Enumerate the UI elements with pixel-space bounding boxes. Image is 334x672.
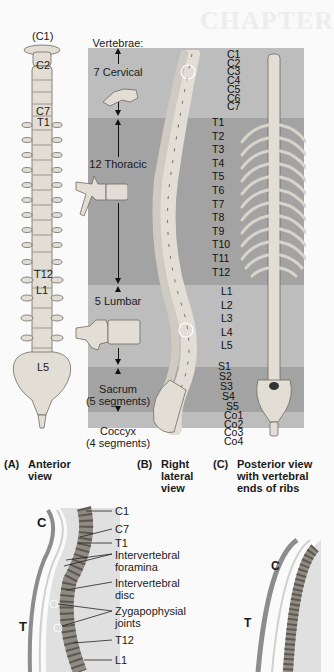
caption-b-line1: Right [161,458,189,470]
posterior-labels-sacral: S1 S2 S3 S4 S5 [218,361,239,411]
arrow-lumbar-up [115,286,121,292]
posterior-labels-cervical: C1 C2 C3 C4 C5 C6 C7 [227,50,240,111]
caption-lateral: (B)Right lateral view [137,458,193,494]
posterior-labels-lumbar: L1 L2 L3 L4 L5 [221,285,233,353]
caption-c-line2: with vertebral [237,470,309,482]
label-l1: L1 [221,285,233,299]
caption-a-letter: (A) [4,458,28,470]
curvature-label-c1: C1 [115,505,129,517]
lateral-spine-illustration [140,50,222,435]
curvature-label-foramina: Intervertebral foramina [115,549,180,573]
anterior-label-l1: L1 [36,284,48,296]
caption-b-line2: lateral [161,470,193,482]
arrow-cervical-down [115,110,121,116]
label-l2: L2 [221,299,233,313]
caption-anterior: (A)Anterior view [4,458,71,482]
label-t8: T8 [212,211,230,225]
label-t2: T2 [212,130,230,144]
arrow-lumbar-down [115,359,121,365]
caption-posterior: (C)Posterior view with vertebral ends of… [213,458,312,494]
curvature-label-l1: L1 [115,654,127,666]
caption-c-line3: ends of ribs [237,482,299,494]
anterior-spine-illustration [0,30,90,435]
anterior-label-l5: L5 [37,361,49,373]
curvature-region-t: T [19,621,27,633]
posterior-curvature-region-t: T [244,617,251,629]
label-l3: L3 [221,312,233,326]
thoracic-vertebra-illustration [72,170,128,220]
label-co4: Co4 [224,437,243,446]
label-t12: T12 [212,266,230,280]
posterior-labels-coccygeal: Co1 Co2 Co3 Co4 [224,411,243,445]
arrow-thoracic-down [115,278,121,284]
cervical-vertebra-illustration [100,84,140,108]
label-l4: L4 [221,326,233,340]
label-l5: L5 [221,339,233,353]
lumbar-vertebra-illustration [74,316,144,352]
curvature-label-t1: T1 [115,537,128,549]
foramina-line1: Intervertebral [115,549,180,561]
label-t4: T4 [212,157,230,171]
coccyx-line2: (4 segments) [74,437,162,449]
label-t9: T9 [212,225,230,239]
anterior-label-t1: T1 [37,116,50,128]
arrow-sacrum-up [115,368,121,374]
foramina-line2: foramina [115,561,180,573]
background-chapter-text: CHAPTER [200,6,334,36]
label-t1: T1 [212,116,230,130]
curvature-label-zygapophysial: Zygapophysial joints [115,605,186,629]
caption-b-line3: view [161,482,185,494]
curvature-region-c: C [37,517,46,529]
caption-c-letter: (C) [213,458,237,470]
disc-line1: Intervertebral [115,577,180,589]
caption-a-line2: view [28,470,52,482]
posterior-curvature-region-c: C [271,560,280,572]
anterior-label-c2: C2 [36,59,50,71]
caption-c-line1: Posterior view [237,458,312,470]
curvature-label-disc: Intervertebral disc [115,577,180,601]
disc-line2: disc [115,589,180,601]
label-c7: C7 [227,102,240,111]
curvature-label-t12: T12 [115,634,134,646]
zyg-line2: joints [115,617,186,629]
label-t3: T3 [212,143,230,157]
zyg-line1: Zygapophysial [115,605,186,617]
caption-a-line1: Anterior [28,458,71,470]
curvature-label-c7: C7 [115,523,129,535]
arrow-sacrum-down [115,406,121,412]
posterior-spine-illustration [240,50,306,440]
anterior-label-t12: T12 [34,268,53,280]
anterior-label-c1: (C1) [32,30,53,42]
posterior-labels-thoracic: T1 T2 T3 T4 T5 T6 T7 T8 T9 T10 T11 T12 [212,116,230,279]
label-t11: T11 [212,252,230,266]
label-t10: T10 [212,238,230,252]
label-t5: T5 [212,170,230,184]
caption-b-letter: (B) [137,458,161,470]
label-t7: T7 [212,198,230,212]
label-t6: T6 [212,184,230,198]
